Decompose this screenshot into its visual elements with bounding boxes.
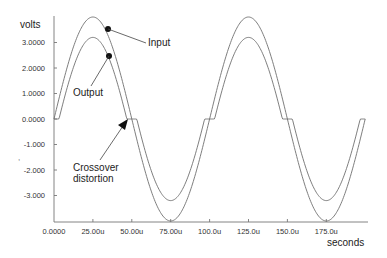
crossover-annotation-line1: Crossover: [73, 162, 119, 173]
y-tick-label: -1.000: [24, 140, 45, 149]
y-ticks: 3.00002.00001.00000.0000-1.000-2.000-3.0…: [22, 38, 57, 200]
x-tick-label: 50.00u: [120, 227, 143, 236]
y-tick-label: 3.0000: [22, 38, 45, 47]
x-tick-label: 175.0u: [315, 227, 338, 236]
input-annotation-label: Input: [148, 37, 170, 48]
output-leader-line: [91, 56, 109, 86]
x-tick-label: 0.0000: [43, 227, 66, 236]
x-tick-label: 150.0u: [276, 227, 299, 236]
stray-mark: ,: [18, 153, 20, 162]
x-tick-label: 125.0u: [237, 227, 260, 236]
output-annotation-label: Output: [73, 87, 103, 98]
y-tick-label: 2.0000: [22, 64, 45, 73]
y-tick-label: -2.000: [24, 166, 45, 175]
x-tick-label: 25.00u: [81, 227, 104, 236]
x-tick-label: 75.00u: [159, 227, 182, 236]
y-tick-label: 0.0000: [22, 115, 45, 124]
crossover-distortion-chart: 3.00002.00001.00000.0000-1.000-2.000-3.0…: [0, 0, 387, 258]
crossover-arrowhead-icon: [118, 119, 128, 130]
x-tick-label: 100.0u: [198, 227, 221, 236]
y-axis-label: volts: [20, 19, 41, 30]
input-leader-line: [108, 29, 146, 43]
y-tick-label: -3.000: [24, 191, 45, 200]
y-tick-label: 1.0000: [22, 89, 45, 98]
x-axis-label: seconds: [327, 237, 364, 248]
crossover-annotation-line2: distortion: [73, 173, 114, 184]
crossover-arrow-line: [100, 126, 123, 160]
